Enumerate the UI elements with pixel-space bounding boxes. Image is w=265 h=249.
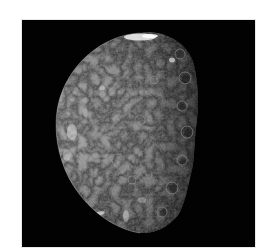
moon-photograph bbox=[22, 20, 255, 247]
cropped-header-text bbox=[0, 0, 265, 3]
moon-image bbox=[22, 20, 255, 247]
